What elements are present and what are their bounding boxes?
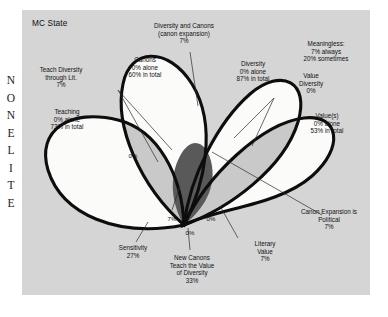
label-teach-diversity-through-lit: Teach Diversity through Lit. 7% <box>24 66 98 89</box>
region-pct-upper-left: 0% <box>122 152 144 159</box>
region-pct-lower-left: 7% <box>161 215 183 222</box>
axis-letter: L <box>2 142 20 160</box>
axis-letter: I <box>2 160 20 178</box>
page-title: MC State <box>32 18 67 28</box>
axis-letter: E <box>2 125 20 143</box>
label-diversity: Diversity 0% alone 87% in total <box>220 60 286 83</box>
axis-letter: T <box>2 177 20 195</box>
label-teaching: Teaching 0% alone 73% in total <box>32 108 102 131</box>
diagram-panel: MC State Diversity and Canons (canon exp… <box>22 10 370 295</box>
label-literary-value: Literary Value 7% <box>240 240 290 263</box>
diagram-canvas: N O N E L I T E <box>0 0 388 317</box>
label-meaningless: Meaningless: 7% always 20% sometimes <box>284 40 368 63</box>
axis-letter: N <box>2 107 20 125</box>
region-pct-bottom-center: 0% <box>179 229 201 236</box>
vertical-axis-label: N O N E L I T E <box>2 72 20 212</box>
label-diversity-and-canons: Diversity and Canons (canon expansion) 7… <box>134 22 234 45</box>
label-value-diversity: Value Diversity 0% <box>286 72 336 95</box>
label-canon-expansion-political: Canon Expansion is Political 7% <box>288 208 370 231</box>
label-values: Value(s) 0% alone 53% in total <box>294 112 360 135</box>
region-pct-lower-right: 0% <box>200 215 222 222</box>
axis-letter: N <box>2 72 20 90</box>
axis-letter: E <box>2 195 20 213</box>
axis-letter: O <box>2 90 20 108</box>
label-canons: Canons 0% alone 60% in total <box>114 56 176 79</box>
label-new-canons: New Canons Teach the Value of Diversity … <box>154 254 230 284</box>
